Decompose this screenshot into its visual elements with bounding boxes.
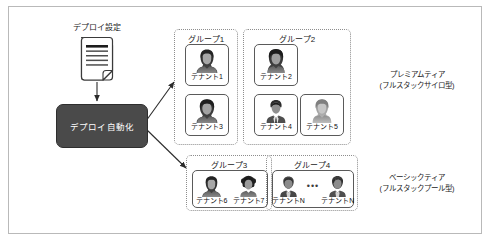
tenant-card-3[interactable]: テナント3 bbox=[185, 94, 229, 136]
group-1-title: グループ1 bbox=[175, 33, 237, 44]
tenant-card-2-label: テナント2 bbox=[260, 73, 292, 80]
tenant-cell-n1[interactable]: テナントN bbox=[272, 174, 305, 204]
diagram-canvas: デプロイ設定 デプロイ自動化 グループ1 テナント1 テナント3 グループ2 bbox=[0, 0, 492, 242]
group-2[interactable]: グループ2 テナント2 テナント4 テナント5 bbox=[243, 29, 351, 145]
deploy-settings-node: デプロイ設定 bbox=[78, 36, 116, 82]
tenant-card-5-label: テナント5 bbox=[306, 123, 338, 130]
avatar-female-afro-icon bbox=[237, 174, 260, 197]
deploy-automation-node[interactable]: デプロイ自動化 bbox=[56, 104, 148, 148]
avatar-female-dark-icon bbox=[194, 47, 220, 73]
document-icon bbox=[78, 36, 116, 82]
tenant-cell-n2[interactable]: テナントN bbox=[321, 174, 354, 204]
group-4-title: グループ4 bbox=[267, 159, 357, 170]
tier-basic-model: (フルスタックプール型) bbox=[358, 184, 476, 195]
deploy-settings-label: デプロイ設定 bbox=[73, 21, 121, 32]
avatar-female-long-icon bbox=[263, 47, 289, 73]
group-3-title: グループ3 bbox=[187, 159, 271, 170]
tier-premium-name: プレミアムティア bbox=[358, 70, 476, 81]
tenant-cell-6[interactable]: テナント6 bbox=[193, 174, 230, 204]
tenant-cell-7-label: テナント7 bbox=[233, 197, 265, 204]
tenant-ellipsis-separator: ••• bbox=[305, 181, 321, 191]
tenant-cell-n2-label: テナントN bbox=[321, 197, 354, 204]
tenant-cell-n1-label: テナントN bbox=[272, 197, 305, 204]
group-2-title: グループ2 bbox=[244, 33, 350, 44]
tier-basic-annotation: ベーシックティア (フルスタックプール型) bbox=[358, 173, 476, 195]
group-4[interactable]: グループ4 テナントN ••• テナントN bbox=[266, 155, 358, 211]
tenant-card-1-label: テナント1 bbox=[191, 73, 223, 80]
avatar-male-suit-icon bbox=[263, 97, 289, 123]
avatar-male-short-icon bbox=[277, 174, 300, 197]
tenant-card-5[interactable]: テナント5 bbox=[300, 94, 344, 136]
avatar-female-bob-icon bbox=[194, 97, 220, 123]
tenant-shared-box-group-3[interactable]: テナント6 テナント7 bbox=[192, 170, 268, 208]
tenant-card-1[interactable]: テナント1 bbox=[185, 44, 229, 86]
avatar-male-spiky-icon bbox=[326, 174, 349, 197]
tenant-card-3-label: テナント3 bbox=[191, 123, 223, 130]
tenant-cell-7[interactable]: テナント7 bbox=[230, 174, 267, 204]
group-1[interactable]: グループ1 テナント1 テナント3 bbox=[174, 29, 238, 145]
tenant-card-4[interactable]: テナント4 bbox=[254, 94, 298, 136]
avatar-female-dark-icon bbox=[200, 174, 223, 197]
tier-basic-name: ベーシックティア bbox=[358, 173, 476, 184]
tenant-shared-box-group-4[interactable]: テナントN ••• テナントN bbox=[272, 170, 354, 208]
tenant-card-2[interactable]: テナント2 bbox=[254, 44, 298, 86]
tenant-cell-6-label: テナント6 bbox=[196, 197, 228, 204]
tenant-card-4-label: テナント4 bbox=[260, 123, 292, 130]
avatar-person-hood-icon bbox=[309, 97, 335, 123]
group-3[interactable]: グループ3 テナント6 テナント7 bbox=[186, 155, 272, 211]
tier-premium-annotation: プレミアムティア (フルスタックサイロ型) bbox=[358, 70, 476, 92]
tier-premium-model: (フルスタックサイロ型) bbox=[358, 81, 476, 92]
deploy-automation-label: デプロイ自動化 bbox=[70, 120, 134, 132]
